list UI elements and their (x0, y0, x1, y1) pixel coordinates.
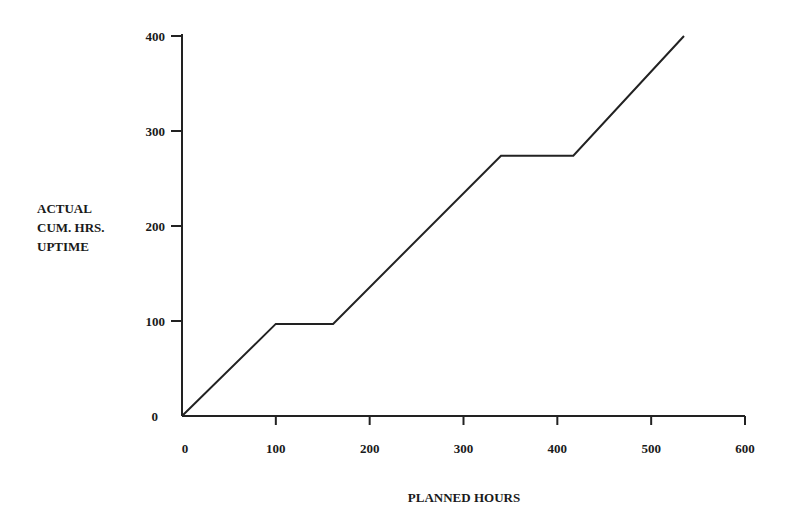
y-axis-title-line: CUM. HRS. (37, 220, 105, 235)
y-tick-label: 100 (146, 314, 166, 329)
x-tick-label: 200 (360, 441, 380, 456)
x-tick-label: 400 (548, 441, 568, 456)
y-axis-title-line: ACTUAL (37, 201, 92, 216)
y-axis-title: ACTUALCUM. HRS.UPTIME (37, 201, 105, 254)
y-axis-title-line: UPTIME (37, 239, 89, 254)
x-tick-label: 0 (182, 441, 189, 456)
x-axis-title: PLANNED HOURS (408, 490, 520, 505)
chart-canvas: ACTUALCUM. HRS.UPTIME 010020030040050060… (0, 0, 796, 528)
y-axis: 0100200300400 (146, 29, 183, 424)
x-tick-label: 500 (641, 441, 661, 456)
x-tick-label: 100 (266, 441, 286, 456)
x-axis: 0100200300400500600 (182, 416, 755, 456)
x-tick-label: 300 (454, 441, 474, 456)
data-line (182, 36, 684, 416)
x-tick-label: 600 (735, 441, 755, 456)
y-tick-label: 300 (146, 124, 166, 139)
y-tick-label: 0 (152, 409, 159, 424)
y-tick-label: 400 (146, 29, 166, 44)
y-tick-label: 200 (146, 219, 166, 234)
